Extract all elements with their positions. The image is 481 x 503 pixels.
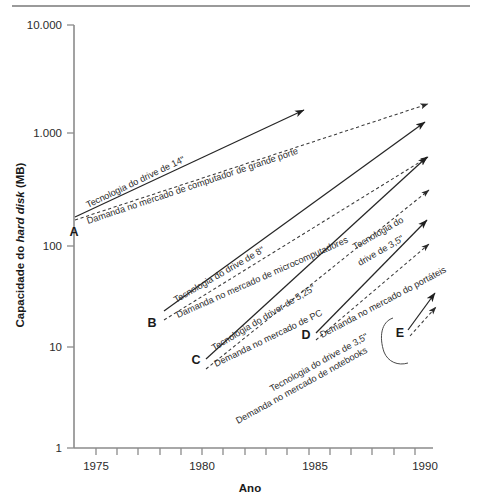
y-tick-label-100: 100: [43, 240, 62, 252]
y-tick-label-1000: 1.000: [33, 127, 62, 139]
svg-text:Capacidade do hard disk (MB): Capacidade do hard disk (MB): [14, 162, 26, 327]
chart-svg: 10.000 1.000 100 10 1 Capacidade do hard…: [0, 0, 481, 503]
y-axis: 10.000 1.000 100 10 1: [27, 19, 74, 454]
x-tick-label-1985: 1985: [302, 460, 328, 472]
y-axis-title-part-2: hard disk: [14, 191, 26, 243]
point-marker-b: B: [147, 316, 156, 330]
y-axis-title: Capacidade do hard disk (MB): [14, 162, 26, 327]
x-tick-label-1975: 1975: [83, 460, 109, 472]
point-marker-d: D: [301, 328, 310, 342]
y-axis-title-part-3: (MB): [14, 162, 26, 191]
label-demand-notebook: Demanda no mercado de notebooks: [234, 345, 369, 426]
point-marker-c: C: [191, 353, 200, 367]
y-tick-label-1: 1: [56, 442, 62, 454]
y-tick-label-10000: 10.000: [27, 19, 62, 31]
notebook-group-bracket: [381, 318, 408, 364]
point-marker-e: E: [396, 326, 404, 340]
x-tick-label-1990: 1990: [412, 460, 438, 472]
label-tech-35inch-notebook: Tecnologia do drive de 3,5": [268, 331, 370, 393]
x-tick-label-1980: 1980: [189, 460, 215, 472]
y-tick-label-10: 10: [49, 341, 62, 353]
x-axis: 1975 1980 1985 1990: [74, 448, 438, 472]
point-marker-a: A: [69, 225, 78, 239]
chart-figure: 10.000 1.000 100 10 1 Capacidade do hard…: [0, 0, 481, 503]
y-axis-title-part-1: Capacidade do: [14, 242, 26, 327]
series-tech-35inch-notebook: [408, 293, 435, 330]
x-axis-title: Ano: [239, 482, 261, 494]
